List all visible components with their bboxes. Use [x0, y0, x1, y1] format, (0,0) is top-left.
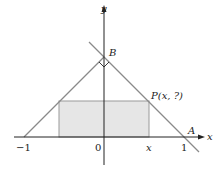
x-axis-label: x: [207, 131, 213, 142]
tick-label-neg-one: −1: [16, 142, 31, 153]
point-A-label: A: [187, 125, 195, 136]
diagram: y x B P(x, ?) A −1 0 x 1: [0, 0, 220, 171]
y-axis-label: y: [100, 3, 107, 14]
x-axis-arrow-icon: [198, 135, 205, 140]
point-B-label: B: [108, 47, 116, 58]
tick-label-one: 1: [181, 142, 187, 153]
tick-label-zero: 0: [95, 142, 101, 153]
tick-label-x: x: [146, 142, 152, 153]
point-P-label: P(x, ?): [150, 90, 183, 101]
diagram-canvas: y x B P(x, ?) A −1 0 x 1: [0, 0, 220, 171]
